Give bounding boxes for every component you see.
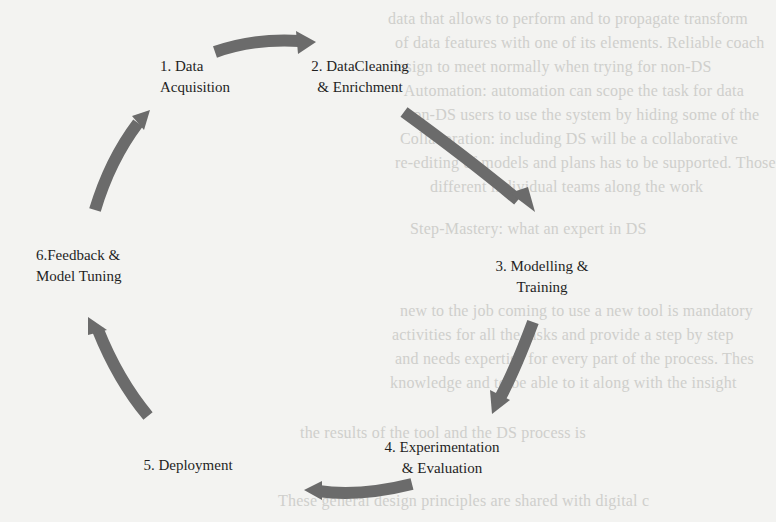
stage-5-deployment: 5. Deployment xyxy=(132,455,244,476)
arrow-4-to-5-icon xyxy=(318,484,412,493)
stage-1-line2: Acquisition xyxy=(160,77,216,98)
stage-4-line2: & Evaluation xyxy=(380,458,504,479)
stage-2-data-cleaning: 2. DataCleaning & Enrichment xyxy=(308,56,412,98)
arrow-2-to-3-icon xyxy=(404,112,518,200)
arrow-1-to-2-icon xyxy=(215,40,300,52)
stage-2-line2: & Enrichment xyxy=(308,77,412,98)
stage-1-line1: 1. Data xyxy=(160,56,216,77)
stage-1-data-acquisition: 1. Data Acquisition xyxy=(160,56,216,98)
stage-3-modelling-training: 3. Modelling & Training xyxy=(486,256,598,298)
stage-4-experimentation-evaluation: 4. Experimentation & Evaluation xyxy=(380,437,504,479)
stage-5-line1: 5. Deployment xyxy=(132,455,244,476)
stage-3-line1: 3. Modelling & xyxy=(486,256,598,277)
stage-3-line2: Training xyxy=(486,277,598,298)
arrow-6-to-1-icon xyxy=(95,123,138,210)
stage-2-line1: 2. DataCleaning xyxy=(308,56,412,77)
stage-6-feedback-tuning: 6.Feedback & Model Tuning xyxy=(36,245,140,287)
arrow-3-to-4-icon xyxy=(500,322,533,398)
stage-6-line2: Model Tuning xyxy=(36,266,140,287)
arrow-5-to-6-icon xyxy=(98,330,148,416)
arrowhead-1-to-2-icon xyxy=(296,31,316,54)
arrowhead-4-to-5-icon xyxy=(304,481,322,500)
stage-6-line1: 6.Feedback & xyxy=(36,245,140,266)
stage-4-line1: 4. Experimentation xyxy=(380,437,504,458)
